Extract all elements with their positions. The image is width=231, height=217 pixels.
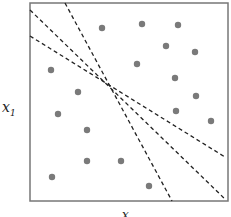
data-point	[134, 61, 140, 67]
data-point	[139, 21, 145, 27]
separating-line	[30, 10, 226, 200]
data-point	[49, 174, 55, 180]
data-point	[163, 43, 169, 49]
diagram-canvas	[0, 0, 231, 217]
data-point	[193, 93, 199, 99]
data-point	[175, 22, 181, 28]
data-point	[146, 183, 152, 189]
data-point	[75, 89, 81, 95]
data-point	[172, 75, 178, 81]
separating-line	[65, 3, 172, 201]
data-point	[48, 67, 54, 73]
y-axis-label: x1	[2, 99, 16, 118]
data-point	[84, 127, 90, 133]
data-point	[99, 25, 105, 31]
plot-frame	[30, 3, 228, 201]
data-point	[84, 158, 90, 164]
x-axis-label: x	[122, 208, 129, 217]
data-point	[173, 108, 179, 114]
data-point	[55, 111, 61, 117]
data-point	[118, 158, 124, 164]
data-point	[208, 118, 214, 124]
data-point	[192, 49, 198, 55]
